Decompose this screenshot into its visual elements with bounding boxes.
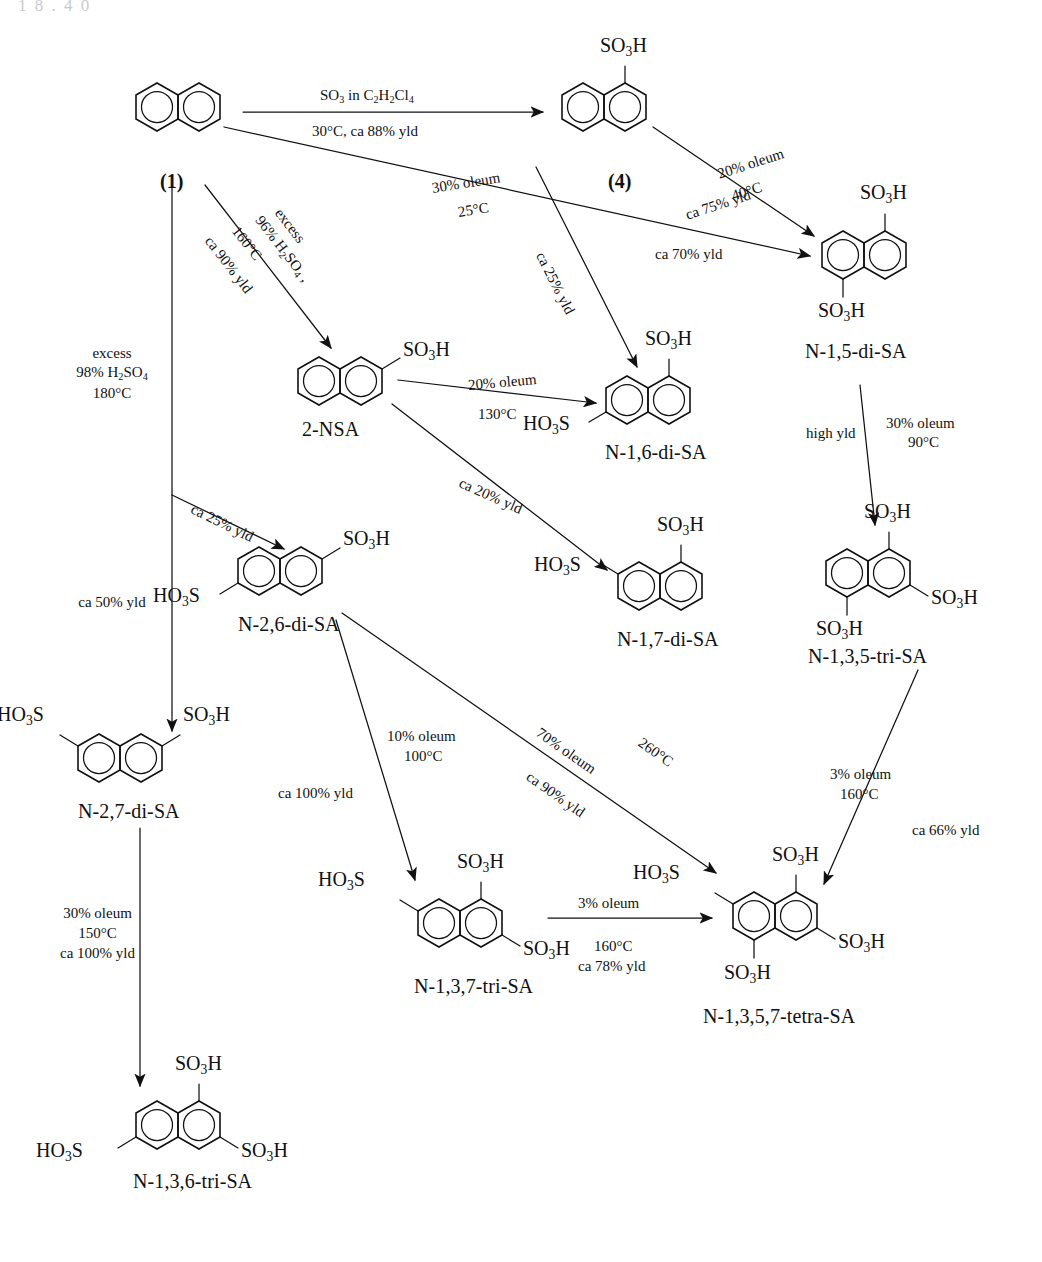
group-so3h-n1357-1: SO3H bbox=[772, 843, 819, 869]
group-so3h-n137trisa-3: SO3H bbox=[523, 937, 570, 963]
condition-r14-temperature: 160°C bbox=[840, 784, 879, 804]
condition-r3-yield: ca 25% yld bbox=[531, 249, 580, 318]
page-header-cutoff: 1 8 . 4 0 bbox=[18, 0, 91, 16]
compound-label-n137trisa: N-1,3,7-tri-SA bbox=[414, 975, 533, 998]
group-so3h-n136trisa-1: SO3H bbox=[175, 1052, 222, 1078]
condition-r1-reagent: SO3 in C2H2Cl4 bbox=[320, 85, 414, 107]
group-ho3s-n17disa-7: HO3S bbox=[534, 553, 581, 579]
group-so3h-n1357-5: SO3H bbox=[724, 961, 771, 987]
condition-r6-yield: ca 25% yld bbox=[188, 499, 258, 547]
condition-r13-temperature: 160°C bbox=[594, 936, 633, 956]
condition-r2-temperature: 25°C bbox=[456, 197, 490, 222]
condition-r5-reagent-line1: excess bbox=[62, 343, 162, 363]
compound-label-n17disa: N-1,7-di-SA bbox=[617, 628, 719, 651]
group-so3h-n1sa-1: SO3H bbox=[600, 34, 647, 60]
condition-r9-yield: ca 20% yld bbox=[456, 473, 526, 519]
mol-n2nsa bbox=[298, 357, 400, 405]
mol-n135trisa bbox=[826, 532, 928, 615]
group-ho3s-n1357-7: HO3S bbox=[633, 861, 680, 887]
condition-r15-reagent: 30% oleum bbox=[45, 903, 150, 923]
condition-r5-yield: ca 50% yld bbox=[62, 592, 162, 612]
group-so3h-n16disa-1: SO3H bbox=[645, 327, 692, 353]
condition-r2-yield: ca 70% yld bbox=[655, 244, 722, 264]
condition-r12-temperature: 260°C bbox=[634, 733, 677, 772]
condition-r8-reagent: 20% oleum bbox=[467, 369, 537, 395]
mol-n26disa bbox=[220, 547, 340, 595]
group-so3h-n15disa-5: SO3H bbox=[818, 299, 865, 325]
condition-r10-reagent: 30% oleum bbox=[886, 413, 955, 433]
group-ho3s-n27disa-2: HO3S bbox=[0, 703, 44, 729]
condition-r14-reagent: 3% oleum bbox=[830, 764, 891, 784]
condition-r1-conditions: 30°C, ca 88% yld bbox=[312, 121, 418, 141]
condition-r13-reagent: 3% oleum bbox=[578, 893, 639, 913]
condition-r15-temperature: 150°C bbox=[45, 923, 150, 943]
so3h-text: SO3H bbox=[600, 34, 647, 56]
mol-n1357tetrasa bbox=[715, 875, 835, 958]
group-so3h-n135trisa-1: SO3H bbox=[864, 500, 911, 526]
condition-r13-yield: ca 78% yld bbox=[578, 956, 645, 976]
arrow-r7 bbox=[653, 127, 814, 236]
group-ho3s-n136trisa-6: HO3S bbox=[36, 1139, 83, 1165]
condition-r14-yield: ca 66% yld bbox=[912, 820, 979, 840]
arrow-r9 bbox=[392, 404, 607, 570]
condition-r11-temperature: 100°C bbox=[404, 746, 443, 766]
group-ho3s-n137trisa-7: HO3S bbox=[318, 868, 365, 894]
mol-n17disa bbox=[600, 545, 702, 610]
compound-label-n27disa: N-2,7-di-SA bbox=[78, 800, 180, 823]
condition-r11-reagent: 10% oleum bbox=[387, 726, 456, 746]
compound-label-n15disa: N-1,5-di-SA bbox=[805, 340, 907, 363]
group-so3h-n135trisa-5: SO3H bbox=[816, 617, 863, 643]
mol-n1sa bbox=[562, 66, 646, 131]
group-so3h-n17disa-1: SO3H bbox=[657, 513, 704, 539]
group-ho3s-n16disa-6: HO3S bbox=[523, 412, 570, 438]
mol-n27disa bbox=[60, 734, 180, 782]
group-so3h-n15disa-1: SO3H bbox=[860, 181, 907, 207]
group-so3h-n135trisa-3: SO3H bbox=[931, 586, 978, 612]
group-so3h-n137trisa-1: SO3H bbox=[457, 850, 504, 876]
mol-n15disa bbox=[822, 214, 906, 297]
reaction-scheme-canvas: 1 8 . 4 0 bbox=[0, 0, 1042, 1262]
compound-label-n136trisa: N-1,3,6-tri-SA bbox=[133, 1170, 252, 1193]
mol-n16disa bbox=[589, 359, 690, 424]
compound-label-n16disa: N-1,6-di-SA bbox=[605, 441, 707, 464]
condition-r15-yield: ca 100% yld bbox=[45, 943, 150, 963]
condition-r10-yield: high yld bbox=[806, 423, 856, 443]
condition-r10-temperature: 90°C bbox=[908, 432, 939, 452]
compound-label-n135trisa: N-1,3,5-tri-SA bbox=[808, 645, 927, 668]
mol-n137trisa bbox=[400, 882, 520, 947]
condition-r12-reagent: 70% oleum bbox=[532, 723, 600, 779]
compound-label-naphthalene: (1) bbox=[160, 170, 183, 193]
group-so3h-n1357-3: SO3H bbox=[838, 930, 885, 956]
condition-r8-temperature: 130°C bbox=[478, 404, 517, 424]
group-so3h-n26disa-2: SO3H bbox=[343, 527, 390, 553]
condition-r5-temperature: 180°C bbox=[62, 383, 162, 403]
condition-r7-yield: ca 75% yld bbox=[683, 185, 753, 225]
compound-label-n1sa: (4) bbox=[608, 170, 631, 193]
condition-r5-reagent-line2: 98% H2SO4 bbox=[48, 362, 176, 384]
compound-label-n26disa: N-2,6-di-SA bbox=[238, 613, 340, 636]
group-so3h-n136trisa-3: SO3H bbox=[241, 1139, 288, 1165]
compound-label-n2nsa: 2-NSA bbox=[302, 418, 359, 441]
mol-n136trisa bbox=[118, 1084, 238, 1149]
condition-r11-yield: ca 100% yld bbox=[278, 783, 353, 803]
condition-r2-reagent: 30% oleum bbox=[430, 167, 501, 198]
condition-r12-yield: ca 90% yld bbox=[522, 767, 589, 822]
mol-naphthalene bbox=[136, 83, 220, 131]
group-so3h-n2nsa-2: SO3H bbox=[403, 338, 450, 364]
compound-label-n1357tetrasa: N-1,3,5,7-tetra-SA bbox=[703, 1005, 855, 1028]
condition-r7-reagent: 20% oleum bbox=[715, 143, 787, 184]
group-so3h-n27disa-7: SO3H bbox=[183, 703, 230, 729]
